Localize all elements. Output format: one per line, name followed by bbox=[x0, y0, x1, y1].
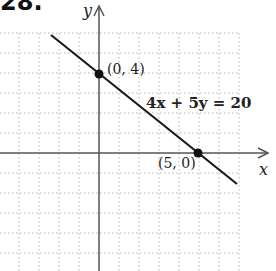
coordinate-graph: y x (0, 4) (5, 0) 4x + 5y = 20 bbox=[0, 0, 276, 271]
point-0-4 bbox=[95, 70, 104, 79]
x-axis-label: x bbox=[259, 160, 268, 179]
point-label-0-4: (0, 4) bbox=[107, 61, 145, 77]
axes bbox=[0, 6, 268, 271]
y-axis-label: y bbox=[82, 1, 93, 20]
point-label-5-0: (5, 0) bbox=[158, 155, 196, 171]
equation-label: 4x + 5y = 20 bbox=[146, 94, 251, 112]
